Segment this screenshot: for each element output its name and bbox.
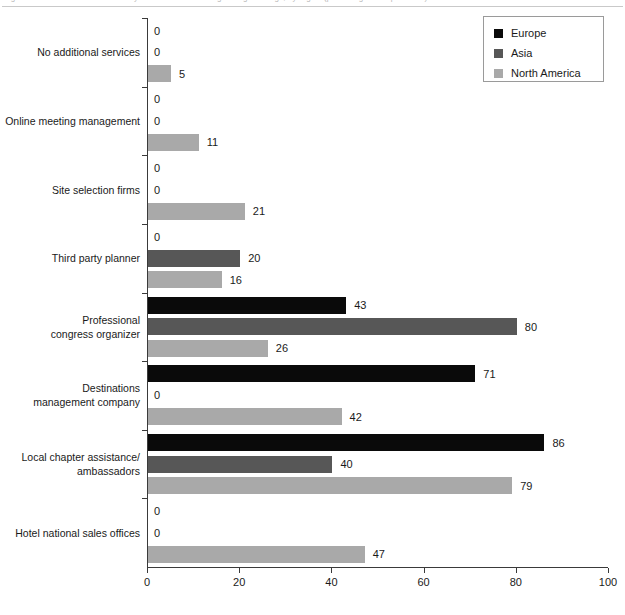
- y-axis-tick: [142, 498, 147, 499]
- bar-value-label: 0: [154, 184, 160, 196]
- bar-value-label: 0: [154, 25, 160, 37]
- x-axis-tick: [239, 568, 240, 573]
- x-axis-tick: [516, 568, 517, 573]
- figure-caption-text: Figure 6. Additional services used by as…: [4, 0, 427, 2]
- bar-value-label: 5: [179, 68, 185, 80]
- bar-value-label: 0: [154, 505, 160, 517]
- bar-north-america: [148, 65, 171, 82]
- category-label: Hotel national sales offices: [15, 526, 140, 540]
- y-axis-tick: [142, 18, 147, 19]
- bar-europe: [148, 365, 475, 382]
- x-axis-tick: [424, 568, 425, 573]
- bar-value-label: 11: [207, 136, 218, 148]
- legend-item-europe[interactable]: Europe: [494, 26, 546, 40]
- category-label: Professional congress organizer: [51, 313, 140, 341]
- x-axis-tick-label: 80: [510, 576, 522, 588]
- bar-value-label: 20: [248, 252, 260, 264]
- x-axis-tick-label: 100: [599, 576, 617, 588]
- y-axis-tick: [142, 87, 147, 88]
- y-axis-tick: [142, 155, 147, 156]
- bar-europe: [148, 434, 544, 451]
- legend-item-northamerica[interactable]: North America: [494, 66, 581, 80]
- bar-north-america: [148, 271, 222, 288]
- bar-value-label: 47: [373, 548, 385, 560]
- bar-north-america: [148, 408, 342, 425]
- x-axis-tick-label: 60: [417, 576, 429, 588]
- legend-label: Europe: [511, 27, 546, 39]
- y-axis-tick: [142, 293, 147, 294]
- category-label-column: No additional servicesOnline meeting man…: [0, 18, 140, 567]
- category-label: Third party planner: [52, 251, 140, 265]
- legend-swatch-icon: [494, 49, 503, 58]
- legend-label: North America: [511, 67, 581, 79]
- legend-swatch-icon: [494, 69, 503, 78]
- bar-value-label: 0: [154, 527, 160, 539]
- bar-asia: [148, 456, 332, 473]
- figure-caption-strip: Figure 6. Additional services used by as…: [0, 0, 625, 8]
- chart-page: Figure 6. Additional services used by as…: [0, 0, 625, 615]
- category-label: Destinations management company: [33, 381, 140, 409]
- bar-asia: [148, 250, 240, 267]
- bar-value-label: 0: [154, 162, 160, 174]
- bar-value-label: 0: [154, 115, 160, 127]
- category-label: Online meeting management: [5, 114, 140, 128]
- legend-item-asia[interactable]: Asia: [494, 46, 532, 60]
- x-axis-tick: [331, 568, 332, 573]
- category-label: No additional services: [37, 45, 140, 59]
- bar-value-label: 0: [154, 93, 160, 105]
- legend-label: Asia: [511, 47, 532, 59]
- bar-value-label: 0: [154, 46, 160, 58]
- bar-value-label: 43: [354, 299, 366, 311]
- bar-value-label: 80: [525, 321, 537, 333]
- category-label: Site selection firms: [52, 183, 140, 197]
- legend-swatch-icon: [494, 29, 503, 38]
- bar-value-label: 16: [230, 274, 242, 286]
- y-axis-tick: [142, 361, 147, 362]
- bar-value-label: 40: [340, 458, 352, 470]
- bar-north-america: [148, 477, 512, 494]
- bar-value-label: 79: [520, 480, 532, 492]
- x-axis-tick-label: 40: [325, 576, 337, 588]
- y-axis-tick: [142, 224, 147, 225]
- bar-value-label: 21: [253, 205, 265, 217]
- bar-value-label: 42: [350, 411, 362, 423]
- bar-north-america: [148, 340, 268, 357]
- x-axis-tick: [608, 568, 609, 573]
- bar-north-america: [148, 134, 199, 151]
- bar-asia: [148, 318, 517, 335]
- x-axis-tick-label: 20: [233, 576, 245, 588]
- plot-area: 0204060801000050011002102016438026710428…: [147, 18, 608, 567]
- caption-divider: [2, 6, 623, 7]
- bar-value-label: 26: [276, 342, 288, 354]
- bar-value-label: 0: [154, 389, 160, 401]
- x-axis-tick: [147, 568, 148, 573]
- bar-value-label: 0: [154, 231, 160, 243]
- category-label: Local chapter assistance/ ambassadors: [22, 450, 140, 478]
- chart-legend: EuropeAsiaNorth America: [483, 16, 604, 82]
- bar-north-america: [148, 546, 365, 563]
- x-axis-tick-label: 0: [144, 576, 150, 588]
- bar-north-america: [148, 203, 245, 220]
- bar-europe: [148, 297, 346, 314]
- y-axis-tick: [142, 430, 147, 431]
- x-axis-line: [147, 567, 608, 568]
- bar-value-label: 71: [483, 368, 495, 380]
- bar-value-label: 86: [552, 437, 564, 449]
